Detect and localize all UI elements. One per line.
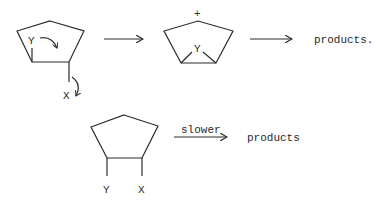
substituent-x-label-2: X xyxy=(138,184,145,196)
cyclopentane-ring-2 xyxy=(91,115,158,158)
substituent-y-label-2: Y xyxy=(103,184,110,196)
intermediate: + Y xyxy=(164,8,233,63)
slower-label: slower xyxy=(181,124,221,136)
bridged-ring xyxy=(164,21,233,63)
bridge-bond-left xyxy=(181,52,192,63)
curved-arrow-y-icon xyxy=(40,38,57,48)
bridge-bond-right xyxy=(203,52,216,63)
substituent-x-label: X xyxy=(63,90,70,102)
reactant-2: Y X xyxy=(91,115,158,196)
bridging-y-label: Y xyxy=(194,43,201,55)
reactant-1: Y X xyxy=(17,21,84,102)
cation-charge-label: + xyxy=(194,8,201,20)
substituent-y-label: Y xyxy=(28,35,35,47)
curved-arrow-x-icon xyxy=(72,77,78,96)
products-label-1: products. xyxy=(314,34,373,46)
products-label-2: products xyxy=(247,132,300,144)
reaction-diagram: Y X + Y products. Y X slower products xyxy=(0,0,384,200)
